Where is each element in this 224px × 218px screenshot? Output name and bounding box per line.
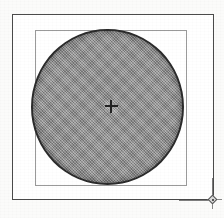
center-crosshair-horizontal — [105, 105, 118, 107]
corner-handle-center-dot — [212, 199, 214, 201]
drawing-canvas — [0, 0, 224, 218]
